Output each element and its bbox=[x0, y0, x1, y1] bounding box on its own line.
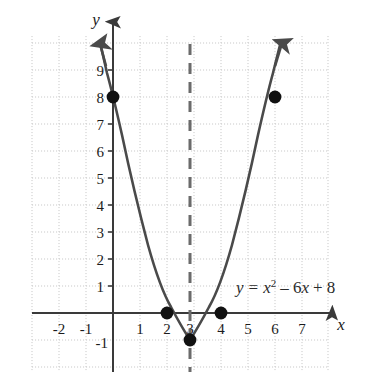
equation-label: y=x2– 6x+ 8 bbox=[234, 277, 335, 297]
y-tick-label-3: 3 bbox=[97, 225, 105, 241]
y-tick-label-5: 5 bbox=[97, 171, 105, 187]
x-axis-label: x bbox=[336, 315, 345, 334]
point-right bbox=[269, 91, 282, 104]
y-tick-label-8: 8 bbox=[97, 90, 105, 106]
x-tick-label-5: 5 bbox=[244, 321, 252, 337]
x-tick-label-7: 7 bbox=[298, 321, 306, 337]
y-tick-label-9: 9 bbox=[97, 63, 105, 79]
y-tick-label-1: 1 bbox=[97, 279, 105, 295]
coordinate-plane-svg: 9 8 7 6 5 4 3 2 1 -1 -2 -1 1 2 3 4 5 6 7… bbox=[0, 0, 379, 378]
equation-middle: – 6 bbox=[279, 278, 301, 297]
equation-var2: x bbox=[300, 278, 309, 297]
x-tick-label-4: 4 bbox=[217, 321, 225, 337]
equation-exponent: 2 bbox=[271, 277, 277, 289]
equation-equals: = bbox=[249, 278, 259, 297]
x-tick-label-neg1: -1 bbox=[80, 321, 93, 337]
graph-figure: 9 8 7 6 5 4 3 2 1 -1 -2 -1 1 2 3 4 5 6 7… bbox=[0, 0, 379, 378]
point-x-intercept-right bbox=[215, 307, 228, 320]
x-tick-label-6: 6 bbox=[271, 321, 279, 337]
point-y-intercept bbox=[107, 91, 120, 104]
y-tick-label-4: 4 bbox=[97, 198, 105, 214]
y-tick-label-neg1: -1 bbox=[96, 335, 109, 351]
y-tick-label-2: 2 bbox=[97, 252, 105, 268]
point-x-intercept-left bbox=[161, 307, 174, 320]
x-tick-label-2: 2 bbox=[163, 321, 171, 337]
x-tick-label-1: 1 bbox=[136, 321, 144, 337]
equation-lhs: y bbox=[234, 278, 244, 297]
x-tick-label-3: 3 bbox=[186, 321, 194, 337]
y-axis-label: y bbox=[90, 10, 100, 29]
equation-tail: + 8 bbox=[313, 278, 335, 297]
x-tick-label-neg2: -2 bbox=[53, 321, 66, 337]
y-tick-label-6: 6 bbox=[97, 144, 105, 160]
y-tick-label-7: 7 bbox=[97, 117, 105, 133]
svg-text:y=x2– 6x+ 8: y=x2– 6x+ 8 bbox=[234, 277, 335, 297]
